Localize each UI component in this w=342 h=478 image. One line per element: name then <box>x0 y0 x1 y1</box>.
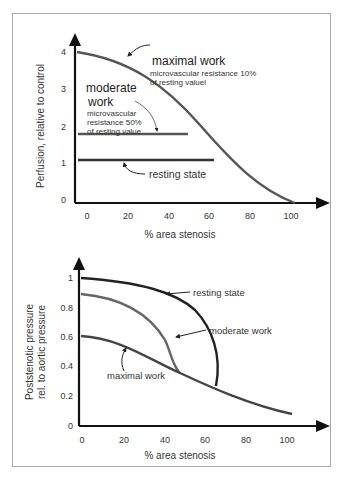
y-tick: 1 <box>68 273 73 283</box>
x-axis-label: % area stenosis <box>144 229 215 240</box>
moderate-work-label: moderate work <box>209 325 272 336</box>
x-tick: 40 <box>164 211 174 221</box>
resting-pointer-arrow-icon <box>166 292 190 294</box>
maximal-work-sublabel: of resting valuel <box>150 78 206 87</box>
moderate-work-curve <box>81 294 180 373</box>
resting-state-label: resting state <box>149 168 206 180</box>
moderate-work-sublabel: resistance 50% <box>87 118 142 127</box>
x-axis-arrow-icon <box>316 197 330 209</box>
y-axis-arrow-icon <box>69 33 81 46</box>
y-tick: 0 <box>68 421 73 431</box>
maximal-pointer-arrow-icon <box>122 348 126 371</box>
y-axis-label: Perfusion, relative to control <box>35 64 46 188</box>
moderate-work-label: moderate <box>86 81 137 95</box>
x-tick: 40 <box>160 435 170 445</box>
y-tick: 0.4 <box>60 361 73 371</box>
y-tick: 3 <box>61 84 66 94</box>
pressure-chart: 1 0.8 0.6 0.4 0.2 0 0 20 40 60 80 100 % … <box>24 257 330 461</box>
x-tick: 20 <box>119 435 129 445</box>
resting-pointer-arrow-icon <box>124 163 145 174</box>
maximal-work-label: maximal work <box>107 370 165 381</box>
y-axis-label: rel. to aortic pressure <box>36 305 47 399</box>
moderate-pointer-arrow-icon <box>176 330 206 337</box>
y-axis-label: Poststenotic pressure <box>24 303 35 400</box>
x-tick: 100 <box>279 435 294 445</box>
moderate-work-sublabel: of resting value <box>87 127 142 136</box>
y-tick: 0.2 <box>60 391 73 401</box>
y-axis-arrow-icon <box>73 257 85 270</box>
y-tick: 0.6 <box>60 332 73 342</box>
x-tick: 0 <box>84 211 89 221</box>
x-axis-label: % area stenosis <box>144 450 215 461</box>
maximal-pointer-arrow-icon <box>128 45 150 56</box>
figure-canvas: 4 3 2 1 0 0 20 40 60 80 100 % area steno… <box>0 0 342 478</box>
resting-state-label: resting state <box>193 287 245 298</box>
y-tick: 0 <box>61 195 66 205</box>
x-axis-arrow-icon <box>316 420 330 432</box>
x-tick: 100 <box>283 211 298 221</box>
x-tick: 60 <box>204 211 214 221</box>
x-tick: 80 <box>245 211 255 221</box>
y-tick: 0.8 <box>60 303 73 313</box>
x-tick: 60 <box>200 435 210 445</box>
y-tick: 1 <box>61 158 66 168</box>
maximal-work-label: maximal work <box>152 54 226 68</box>
moderate-work-label: work <box>87 95 114 109</box>
x-tick: 80 <box>241 435 251 445</box>
x-tick: 20 <box>123 211 133 221</box>
x-tick: 0 <box>79 435 84 445</box>
y-tick: 2 <box>61 122 66 132</box>
y-tick: 4 <box>61 47 66 57</box>
perfusion-chart: 4 3 2 1 0 0 20 40 60 80 100 % area steno… <box>35 33 330 240</box>
maximal-work-sublabel: microvascular resistance 10% <box>150 69 256 78</box>
moderate-work-sublabel: microvascular <box>87 109 137 118</box>
